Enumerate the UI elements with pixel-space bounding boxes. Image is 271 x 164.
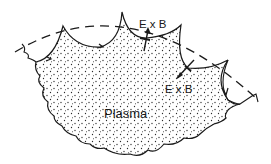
right-lobe-edge [223, 60, 258, 105]
diagram-svg: E x B E x B Plasma [0, 0, 271, 164]
plasma-label: Plasma [104, 106, 148, 121]
plasma-region [36, 12, 241, 155]
flow-arrow-lobe-2 [97, 44, 103, 48]
left-edge-ripple [22, 44, 36, 62]
exb-label-top: E x B [139, 18, 167, 30]
plasma-exb-diagram: E x B E x B Plasma [0, 0, 271, 164]
exb-label-right: E x B [165, 83, 193, 95]
